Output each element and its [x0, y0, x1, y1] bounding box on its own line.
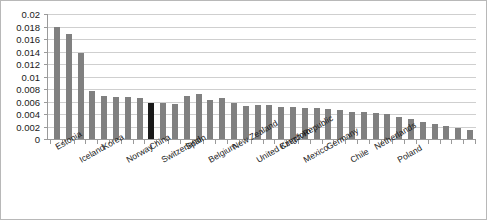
y-axis-tick-label: 0.002 — [16, 122, 40, 131]
bar — [278, 107, 284, 140]
bar — [66, 34, 72, 139]
bar — [231, 103, 237, 139]
y-axis-tick-label: 0.012 — [16, 60, 40, 69]
bar — [443, 126, 449, 139]
y-axis-tick-label: 0.006 — [16, 97, 40, 106]
chart-container: 0.020.0180.0160.0140.0120.010.0080.0060.… — [0, 0, 487, 220]
x-axis-labels: EstoniaIcelandKoreaNorwayChinaSwitzerlan… — [1, 144, 488, 214]
bar — [172, 104, 178, 139]
bar — [78, 53, 84, 139]
bar — [125, 97, 131, 139]
bar — [207, 100, 213, 139]
y-axis-tick-label: 0.004 — [16, 110, 40, 119]
bar — [467, 130, 473, 139]
y-axis-tick-label: 0.014 — [16, 47, 40, 56]
bar — [455, 128, 461, 139]
y-axis-tick-label: 0.02 — [22, 10, 41, 19]
bar — [420, 122, 426, 140]
bar — [219, 98, 225, 139]
x-axis-category-label: Chile — [349, 147, 370, 165]
y-axis-tick-label: 0.018 — [16, 22, 40, 31]
bar — [432, 124, 438, 139]
bar — [54, 27, 60, 140]
y-axis-tick-label: 0.01 — [22, 72, 41, 81]
bar — [361, 112, 367, 139]
bar — [101, 96, 107, 139]
x-axis-category-label: Poland — [396, 144, 424, 165]
bar — [373, 113, 379, 139]
y-axis-tick-label: 0.016 — [16, 35, 40, 44]
bar — [137, 98, 143, 139]
y-axis-tick-label: 0.008 — [16, 85, 40, 94]
bar — [148, 103, 154, 139]
y-axis: 0.020.0180.0160.0140.0120.010.0080.0060.… — [1, 7, 45, 147]
bar — [89, 91, 95, 139]
y-axis-tick-label: 0 — [35, 135, 40, 144]
bar — [184, 96, 190, 139]
